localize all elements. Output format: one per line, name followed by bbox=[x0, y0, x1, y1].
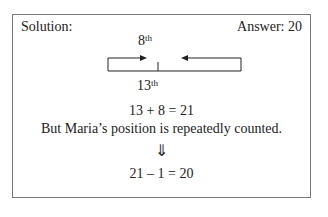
bottom-position-label: 13th bbox=[137, 78, 158, 94]
left-arrow-icon bbox=[181, 55, 188, 61]
down-arrow-icon: ⇓ bbox=[13, 143, 310, 159]
solution-frame: Solution: Answer: 20 8th 13th 13 + 8 = 2… bbox=[12, 14, 311, 198]
equation-result: 21 – 1 = 20 bbox=[13, 166, 310, 182]
right-arrow-icon bbox=[140, 55, 147, 61]
equation-sum: 13 + 8 = 21 bbox=[13, 103, 310, 119]
note-text: But Maria’s position is repeatedly count… bbox=[13, 121, 310, 137]
